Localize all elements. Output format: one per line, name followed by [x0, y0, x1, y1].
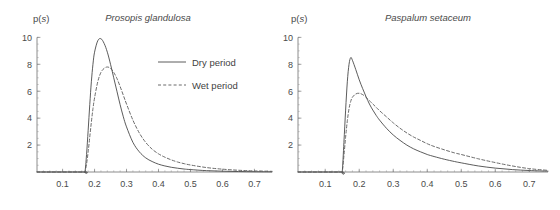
x-tick-label: 0.4	[152, 179, 165, 189]
data-curve-dry	[298, 57, 548, 174]
legend-label-dry: Dry period	[192, 57, 236, 68]
x-tick-label: 0.3	[120, 179, 133, 189]
y-axis-label: p(s)	[33, 13, 49, 24]
x-tick-label: 0.5	[455, 179, 468, 189]
y-axis-label: p(s)	[291, 13, 307, 24]
x-tick-label: 0.6	[489, 179, 502, 189]
y-tick-label: 8	[27, 60, 32, 70]
y-tick-label: 10	[22, 33, 32, 43]
curves-group-right	[298, 57, 548, 174]
chart-svg-right: Paspalum setaceum p(s) 0.10.20.30.40.50.…	[280, 0, 560, 210]
legend-label-wet: Wet period	[192, 80, 238, 91]
y-axis-label-suffix: )	[304, 13, 307, 24]
legend: Dry period Wet period	[158, 57, 238, 91]
y-tick-label: 4	[27, 113, 32, 123]
x-tick-label: 0.6	[216, 179, 229, 189]
y-tick-label: 6	[27, 87, 32, 97]
x-tick-label: 0.2	[88, 179, 101, 189]
y-tick-label: 10	[283, 33, 293, 43]
y-tick-label: 2	[288, 140, 293, 150]
y-tick-label: 2	[27, 140, 32, 150]
x-tick-label: 0.1	[56, 179, 69, 189]
curves-group-left	[37, 39, 272, 174]
data-curve-dry	[37, 39, 272, 174]
x-tick-label: 0.4	[421, 179, 434, 189]
y-tick-label: 8	[288, 60, 293, 70]
chart-panel-paspalum-setaceum: Paspalum setaceum p(s) 0.10.20.30.40.50.…	[280, 0, 560, 210]
x-tick-label: 0.3	[387, 179, 400, 189]
y-tick-label: 6	[288, 87, 293, 97]
data-curve-wet	[298, 93, 548, 173]
figure-container: Prosopis glandulosa p(s) 0.10.20.30.40.5…	[0, 0, 560, 210]
chart-svg-left: Prosopis glandulosa p(s) 0.10.20.30.40.5…	[0, 0, 280, 210]
panel-title: Paspalum setaceum	[385, 12, 471, 23]
y-tick-label: 4	[288, 113, 293, 123]
x-tick-label: 0.1	[319, 179, 332, 189]
x-tick-label: 0.7	[523, 179, 536, 189]
x-tick-label: 0.7	[248, 179, 261, 189]
panel-title: Prosopis glandulosa	[105, 12, 191, 23]
x-tick-label: 0.5	[184, 179, 197, 189]
y-axis-label-suffix: )	[46, 13, 49, 24]
x-tick-label: 0.2	[353, 179, 366, 189]
chart-panel-prosopis-glandulosa: Prosopis glandulosa p(s) 0.10.20.30.40.5…	[0, 0, 280, 210]
